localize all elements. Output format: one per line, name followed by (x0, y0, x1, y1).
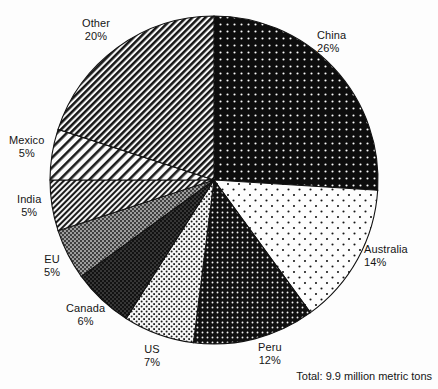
slice-label-name: India (17, 193, 41, 206)
slice-label-name: Peru (258, 341, 282, 354)
slice-label-india: India5% (17, 193, 41, 219)
slice-label-name: US (144, 343, 160, 356)
slice-label-percent: 26% (317, 42, 346, 55)
slice-label-china: China26% (317, 29, 346, 55)
slice-label-percent: 7% (144, 356, 160, 369)
slice-label-australia: Australia14% (364, 243, 408, 269)
slice-label-percent: 5% (44, 266, 60, 279)
slice-label-name: Canada (66, 302, 105, 315)
pie-chart-canvas (0, 0, 438, 389)
slice-label-other: Other20% (82, 17, 110, 43)
slice-label-percent: 6% (66, 315, 105, 328)
slice-label-mexico: Mexico5% (9, 134, 44, 160)
slice-label-eu: EU5% (44, 253, 60, 279)
slice-label-percent: 20% (82, 30, 110, 43)
slice-label-name: Other (82, 17, 110, 30)
total-annotation: Total: 9.9 million metric tons (296, 370, 432, 382)
slice-label-canada: Canada6% (66, 302, 105, 328)
slice-label-peru: Peru12% (258, 341, 282, 367)
slice-label-percent: 12% (258, 354, 282, 367)
slice-label-name: China (317, 29, 346, 42)
slice-label-us: US7% (144, 343, 160, 369)
pie-slice-china[interactable] (214, 16, 378, 190)
slice-label-percent: 5% (17, 206, 41, 219)
slice-label-percent: 14% (364, 256, 408, 269)
slice-label-name: Australia (364, 243, 408, 256)
slice-label-name: Mexico (9, 134, 44, 147)
pie-chart: China26%Australia14%Peru12%US7%Canada6%E… (0, 0, 438, 389)
pie-slices (50, 16, 378, 344)
slice-label-name: EU (44, 253, 60, 266)
slice-label-percent: 5% (9, 147, 44, 160)
